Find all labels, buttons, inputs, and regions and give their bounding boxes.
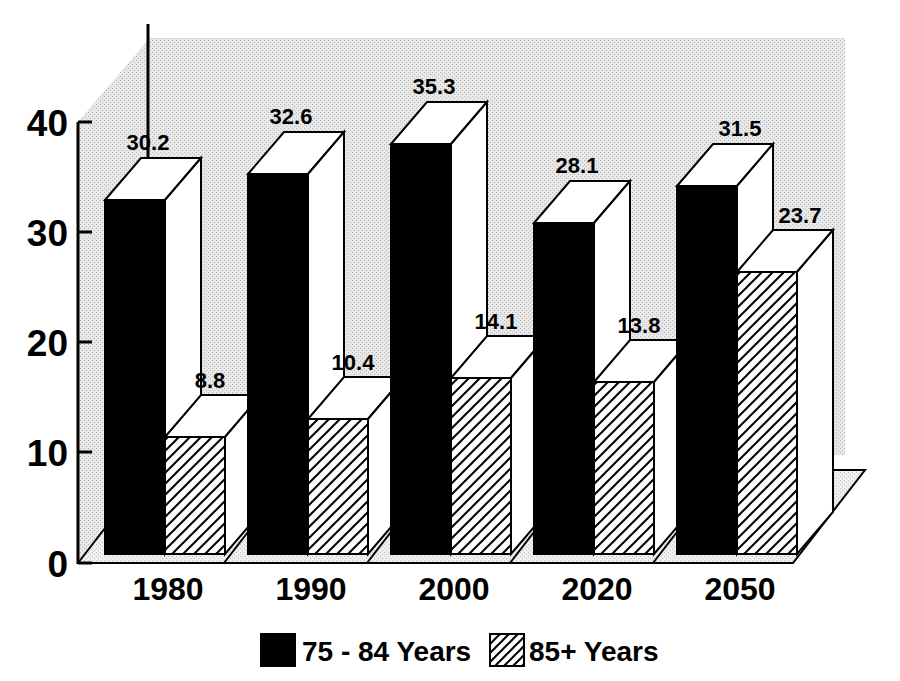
value-label-2050-85plus: 23.7 bbox=[779, 203, 822, 228]
value-label-1990-75-84: 32.6 bbox=[270, 104, 313, 129]
bar-front-face bbox=[677, 186, 737, 554]
x-axis-label-1990: 1990 bbox=[275, 571, 346, 607]
bar-front-face bbox=[451, 378, 511, 554]
legend-swatch-75-84 bbox=[261, 634, 295, 666]
bar-front-face bbox=[534, 223, 594, 554]
y-axis-label-30: 30 bbox=[27, 213, 68, 254]
x-axis-label-1980: 1980 bbox=[132, 571, 203, 607]
bar-front-face bbox=[737, 272, 797, 554]
bar-chart-figure: 40 30 20 10 0 30.2 8.8 bbox=[0, 0, 900, 681]
bar-front-face bbox=[391, 144, 451, 554]
value-label-1980-75-84: 30.2 bbox=[127, 130, 170, 155]
bar-1980-85plus[interactable] bbox=[165, 395, 261, 554]
y-axis-label-20: 20 bbox=[27, 323, 68, 364]
chart-legend: 75 - 84 Years 85+ Years bbox=[261, 634, 659, 667]
value-label-2000-85plus: 14.1 bbox=[475, 309, 518, 334]
legend-swatch-85plus bbox=[490, 634, 524, 666]
x-axis-label-2050: 2050 bbox=[704, 571, 775, 607]
legend-label-85plus: 85+ Years bbox=[529, 636, 659, 667]
y-axis-label-0: 0 bbox=[47, 544, 68, 585]
value-label-2020-75-84: 28.1 bbox=[556, 153, 599, 178]
bar-front-face bbox=[105, 200, 165, 554]
bar-front-face bbox=[308, 419, 368, 554]
value-label-1990-85plus: 10.4 bbox=[332, 350, 376, 375]
x-axis-label-2020: 2020 bbox=[561, 571, 632, 607]
bar-front-face bbox=[165, 437, 225, 554]
value-label-2000-75-84: 35.3 bbox=[413, 74, 456, 99]
bar-2020-85plus[interactable] bbox=[594, 340, 690, 554]
value-label-2020-85plus: 13.8 bbox=[618, 313, 661, 338]
value-label-2050-75-84: 31.5 bbox=[719, 116, 762, 141]
bar-front-face bbox=[594, 382, 654, 554]
chart-svg: 40 30 20 10 0 30.2 8.8 bbox=[0, 0, 900, 681]
legend-label-75-84: 75 - 84 Years bbox=[302, 636, 471, 667]
x-axis-label-2000: 2000 bbox=[418, 571, 489, 607]
y-axis-label-10: 10 bbox=[27, 433, 68, 474]
y-axis-label-40: 40 bbox=[27, 103, 68, 144]
bar-2050-85plus[interactable] bbox=[737, 230, 833, 554]
value-label-1980-85plus: 8.8 bbox=[195, 368, 226, 393]
bar-side-face bbox=[797, 230, 833, 554]
bar-2000-85plus[interactable] bbox=[451, 336, 547, 554]
bar-front-face bbox=[248, 174, 308, 554]
bar-1990-85plus[interactable] bbox=[308, 377, 404, 554]
